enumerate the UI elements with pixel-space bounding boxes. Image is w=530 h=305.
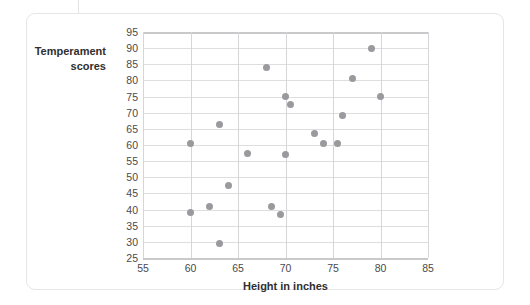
y-tick-label: 90 bbox=[112, 43, 138, 54]
y-tick-label: 45 bbox=[112, 188, 138, 199]
data-point bbox=[368, 45, 375, 52]
data-point bbox=[216, 121, 223, 128]
data-point bbox=[377, 93, 384, 100]
y-tick-label: 40 bbox=[112, 204, 138, 215]
y-tick-label: 35 bbox=[112, 220, 138, 231]
data-point bbox=[339, 112, 346, 119]
gridline-vertical bbox=[143, 32, 144, 258]
y-tick-label: 85 bbox=[112, 59, 138, 70]
y-tick-label: 30 bbox=[112, 237, 138, 248]
data-point bbox=[311, 130, 318, 137]
data-point bbox=[349, 75, 356, 82]
data-point bbox=[277, 211, 284, 218]
y-tick-label: 50 bbox=[112, 172, 138, 183]
data-point bbox=[320, 140, 327, 147]
x-tick-label: 65 bbox=[232, 263, 244, 274]
data-point bbox=[282, 93, 289, 100]
y-tick-label: 95 bbox=[112, 27, 138, 38]
data-point bbox=[287, 101, 294, 108]
data-point bbox=[244, 150, 251, 157]
y-tick-label: 75 bbox=[112, 91, 138, 102]
plot-area bbox=[143, 32, 428, 258]
x-tick-label: 85 bbox=[422, 263, 434, 274]
gridline-vertical bbox=[428, 32, 429, 258]
data-point bbox=[263, 64, 270, 71]
x-axis-tick-labels: 55606570758085 bbox=[143, 263, 428, 277]
scatter-plot: Temperament scores 253035404550556065707… bbox=[0, 0, 530, 305]
y-tick-label: 25 bbox=[112, 253, 138, 264]
data-point bbox=[268, 203, 275, 210]
data-point bbox=[187, 209, 194, 216]
y-tick-label: 80 bbox=[112, 75, 138, 86]
y-tick-label: 60 bbox=[112, 140, 138, 151]
data-point bbox=[282, 151, 289, 158]
data-point bbox=[187, 140, 194, 147]
y-tick-label: 55 bbox=[112, 156, 138, 167]
y-axis-title: Temperament scores bbox=[28, 44, 106, 74]
data-point bbox=[206, 203, 213, 210]
x-tick-label: 60 bbox=[185, 263, 197, 274]
data-point bbox=[216, 240, 223, 247]
y-tick-label: 65 bbox=[112, 124, 138, 135]
gridline-vertical bbox=[286, 32, 287, 258]
x-axis-title: Height in inches bbox=[143, 280, 428, 292]
y-axis-tick-labels: 253035404550556065707580859095 bbox=[110, 32, 138, 258]
x-tick-label: 70 bbox=[280, 263, 292, 274]
gridline-vertical bbox=[238, 32, 239, 258]
gridline-horizontal bbox=[143, 258, 428, 260]
data-point bbox=[225, 182, 232, 189]
x-tick-label: 80 bbox=[375, 263, 387, 274]
y-tick-label: 70 bbox=[112, 107, 138, 118]
x-tick-label: 55 bbox=[137, 263, 149, 274]
x-tick-label: 75 bbox=[327, 263, 339, 274]
gridline-vertical bbox=[381, 32, 382, 258]
